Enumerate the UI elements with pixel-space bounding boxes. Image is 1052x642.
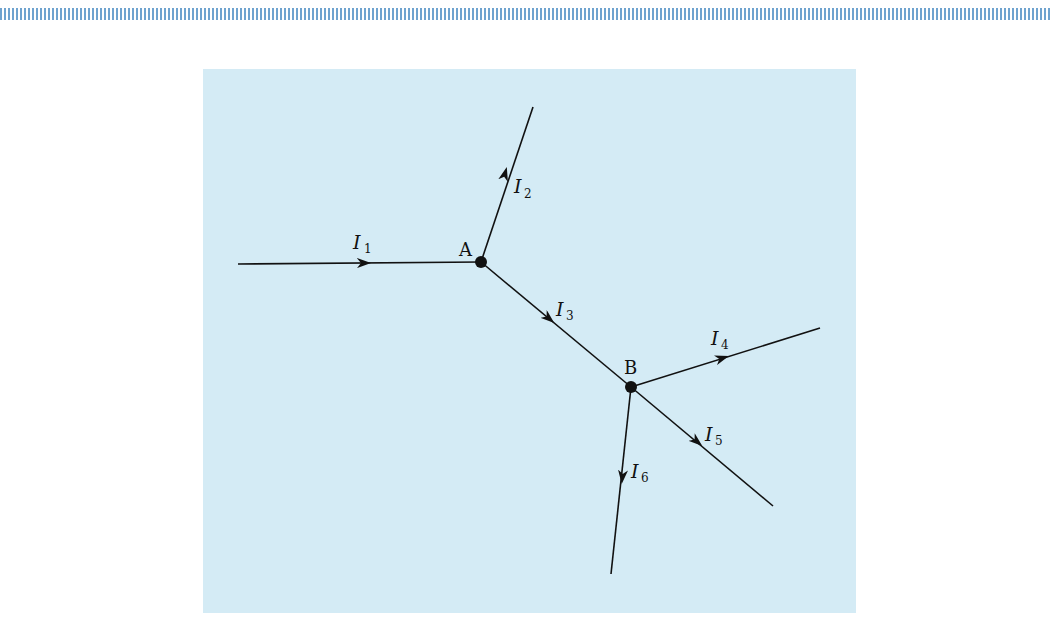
svg-text:6: 6 bbox=[641, 471, 649, 485]
circuit-junction-diagram: A B I 1 I 2 I 3 I 4 I 5 I 6 bbox=[0, 0, 1052, 642]
svg-text:2: 2 bbox=[524, 187, 532, 201]
branch-i1 bbox=[238, 262, 481, 264]
node-b-label: B bbox=[624, 357, 637, 378]
node-a-label: A bbox=[458, 239, 473, 260]
svg-text:1: 1 bbox=[364, 242, 372, 256]
svg-text:3: 3 bbox=[566, 309, 574, 323]
label-i5: I 5 bbox=[704, 423, 723, 448]
svg-text:I: I bbox=[630, 460, 639, 482]
label-i3: I 3 bbox=[555, 298, 574, 323]
node-a-dot bbox=[475, 256, 487, 268]
svg-text:I: I bbox=[513, 175, 522, 197]
label-i2: I 2 bbox=[513, 175, 532, 201]
label-i6: I 6 bbox=[630, 460, 649, 485]
label-i1: I 1 bbox=[352, 231, 372, 256]
svg-text:I: I bbox=[710, 327, 719, 349]
branch-i2 bbox=[481, 107, 533, 262]
svg-text:4: 4 bbox=[721, 338, 729, 352]
branch-i4 bbox=[631, 328, 820, 387]
svg-text:I: I bbox=[704, 423, 713, 445]
branch-i3 bbox=[481, 262, 631, 387]
node-b-dot bbox=[625, 381, 637, 393]
branch-i5 bbox=[631, 387, 773, 506]
branch-i6 bbox=[611, 387, 631, 574]
svg-text:I: I bbox=[555, 298, 564, 320]
label-i4: I 4 bbox=[710, 327, 729, 352]
svg-text:5: 5 bbox=[715, 434, 723, 448]
svg-text:I: I bbox=[352, 231, 361, 253]
